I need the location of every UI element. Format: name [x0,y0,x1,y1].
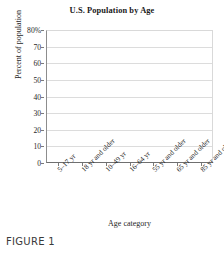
chart-title: U.S. Population by Age [0,6,224,15]
y-axis-tick-label: 30 [33,109,41,118]
y-axis-tick-label: 50 [33,75,41,84]
y-axis-tick-label: 10 [33,142,41,151]
gridline [47,97,212,98]
y-axis-tick-label: 20 [33,125,41,134]
plot-area [46,30,213,163]
y-axis-tick-mark [41,146,44,147]
y-axis-tick-mark [41,47,44,48]
gridline [47,130,212,131]
y-axis-tick-mark [41,130,44,131]
y-axis-tick-mark [41,113,44,114]
x-axis-tick-labels: 5–17 yr18 yr and older10–49 yr16–64 yr55… [0,163,224,218]
gridline [47,47,212,48]
y-axis-tick-mark [41,30,44,31]
y-axis-tick-mark [41,63,44,64]
y-axis-tick-label: 60 [33,59,41,68]
y-axis-tick-mark [41,97,44,98]
y-axis-tick-label: 40 [33,92,41,101]
gridline [47,80,212,81]
y-axis-tick-label: 80% [27,26,41,35]
y-axis-tick-mark [41,80,44,81]
y-axis-tick-label: 70 [33,42,41,51]
figure-container: U.S. Population by Age Percent of popula… [0,0,224,255]
y-axis-tick-labels: 01020304050607080% [0,30,44,163]
gridline [47,113,212,114]
gridline [47,63,212,64]
figure-caption: FIGURE 1 [6,236,55,247]
x-axis-title: Age category [46,219,213,228]
gridline [47,146,212,147]
